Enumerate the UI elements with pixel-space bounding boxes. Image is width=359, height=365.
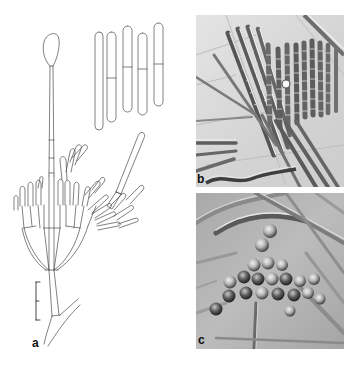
panel-label-a: a [32, 337, 39, 349]
right-chain [107, 132, 145, 209]
conidia-group [95, 23, 163, 130]
scale-bar [36, 282, 40, 320]
conidia-columns-image [196, 15, 344, 187]
stipe-base [44, 270, 80, 346]
panel-c-micrograph: c [196, 193, 344, 349]
panel-b-micrograph: b [196, 15, 344, 187]
conidiophore-illustration [0, 0, 190, 365]
panel-label-b: b [197, 173, 204, 185]
vesicle-stipe [43, 34, 59, 270]
globose-cells-image [196, 193, 344, 349]
panel-label-c: c [198, 334, 205, 346]
figure: a [0, 0, 359, 365]
penicillus-branches [14, 145, 144, 270]
panel-a-drawing: a [0, 0, 190, 365]
